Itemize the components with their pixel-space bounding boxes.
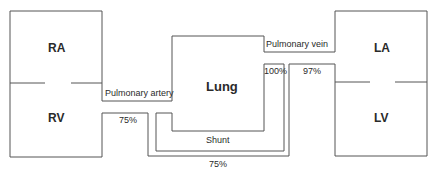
right-heart-outline xyxy=(10,11,102,157)
pct-pulmonary-capillary: 100% xyxy=(264,67,287,76)
pct-rv-outflow: 75% xyxy=(119,116,137,125)
label-lung: Lung xyxy=(206,80,238,93)
chamber-label-lv: LV xyxy=(374,112,388,124)
label-pulmonary-artery: Pulmonary artery xyxy=(105,89,174,98)
label-pulmonary-vein: Pulmonary vein xyxy=(266,40,328,49)
chamber-label-rv: RV xyxy=(48,112,64,124)
label-shunt: Shunt xyxy=(206,136,230,145)
left-heart-outline xyxy=(335,11,427,156)
chamber-label-la: LA xyxy=(374,42,390,54)
chamber-label-ra: RA xyxy=(48,42,65,54)
pct-systemic-arterial: 97% xyxy=(303,67,321,76)
pct-shunt-return: 75% xyxy=(209,160,227,169)
